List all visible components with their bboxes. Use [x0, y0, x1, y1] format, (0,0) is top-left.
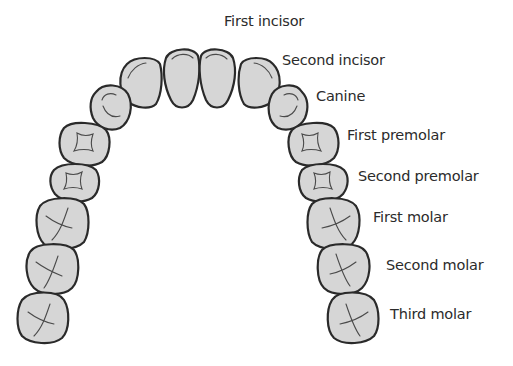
label-first-incisor: First incisor: [224, 13, 304, 29]
label-canine: Canine: [316, 88, 365, 104]
right-first-incisor: [200, 49, 235, 107]
left-second-molar: [27, 244, 79, 294]
label-first-premolar: First premolar: [347, 127, 445, 143]
right-second-premolar: [299, 164, 348, 201]
left-first-molar: [37, 198, 89, 249]
left-canine: [91, 85, 131, 129]
right-second-molar: [318, 244, 370, 294]
right-first-premolar: [289, 123, 339, 166]
left-third-molar: [18, 293, 69, 344]
label-second-incisor: Second incisor: [282, 52, 385, 68]
left-first-incisor: [164, 49, 199, 107]
right-third-molar: [328, 293, 379, 344]
label-second-premolar: Second premolar: [358, 168, 479, 184]
label-third-molar: Third molar: [390, 306, 471, 322]
left-first-premolar: [60, 123, 110, 166]
label-first-molar: First molar: [373, 209, 448, 225]
right-canine: [269, 85, 308, 129]
left-second-premolar: [50, 164, 99, 201]
label-second-molar: Second molar: [386, 257, 483, 273]
right-first-molar: [308, 198, 360, 249]
